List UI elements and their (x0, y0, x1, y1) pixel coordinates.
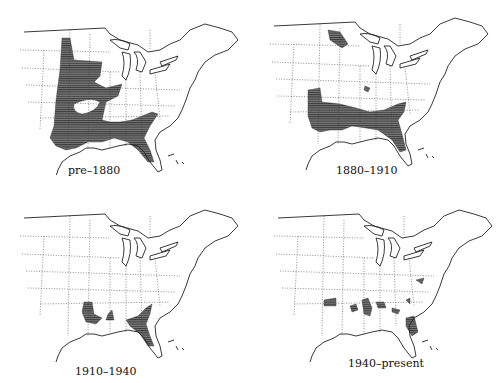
map-panel-1940-present: 1940–present (250, 190, 500, 380)
panel-label: 1880–1910 (336, 164, 398, 177)
map-panel-1880-1910: 1880–1910 (250, 0, 500, 190)
map-panel-pre-1880: pre–1880 (0, 0, 250, 190)
us-map (0, 190, 250, 365)
us-map (0, 0, 250, 175)
panel-label: 1940–present (348, 357, 424, 370)
map-panel-1910-1940: 1910–1940 (0, 190, 250, 380)
us-map (250, 0, 500, 175)
panel-label: 1910–1940 (75, 365, 137, 378)
panel-label: pre–1880 (68, 164, 120, 177)
us-map (250, 190, 500, 365)
